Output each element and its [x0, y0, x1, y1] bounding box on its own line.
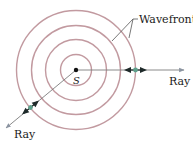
wavefront-diagram: S Wavefronts Ray Ray	[0, 0, 193, 146]
double-arrow-right	[124, 67, 147, 73]
double-arrow-lower	[20, 98, 41, 117]
leader-line-1	[112, 19, 133, 41]
wavefronts-label: Wavefronts	[139, 13, 193, 26]
leader-line-2	[129, 19, 133, 38]
ray-label-lower: Ray	[14, 128, 36, 141]
ray-label-right: Ray	[169, 75, 191, 88]
wavefront-marker-dot	[133, 68, 138, 73]
wavefronts-leader	[112, 19, 138, 41]
source-point	[74, 68, 78, 72]
source-label: S	[73, 75, 80, 86]
